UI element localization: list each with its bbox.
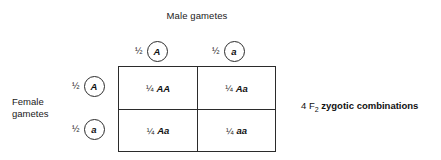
female-gamete-a-probability: ½: [72, 125, 80, 134]
caption-emphasis: zygotic combinations: [321, 100, 418, 111]
male-gamete-a-probability: ½: [212, 47, 220, 56]
punnett-grid: ¼ AA ¼ Aa ¼ Aa ¼ aa: [118, 66, 276, 152]
allele-circle-icon: a: [84, 119, 105, 140]
allele-circle-icon: A: [147, 41, 168, 62]
male-gametes-heading: Male gametes: [118, 10, 276, 21]
punnett-cell-aa-genotype: aa: [236, 125, 247, 136]
caption-count: 4 F: [301, 100, 315, 111]
female-gametes-heading: Female gametes: [12, 96, 48, 119]
punnett-cell-Aa-bottom-probability: ¼: [147, 126, 155, 136]
punnett-cell-aa: ¼ aa: [197, 109, 275, 151]
male-gamete-a: ½ a: [212, 41, 245, 62]
female-gamete-A-probability: ½: [72, 82, 80, 91]
punnett-cell-AA-genotype: AA: [156, 83, 170, 94]
punnett-cell-aa-probability: ¼: [226, 126, 234, 136]
zygotic-combinations-caption: 4 F2 zygotic combinations: [301, 100, 418, 113]
female-gametes-heading-line1: Female: [12, 96, 48, 108]
punnett-cell-Aa-bottom: ¼ Aa: [119, 109, 197, 151]
male-gamete-a-allele: a: [231, 47, 236, 57]
punnett-cell-AA-probability: ¼: [146, 83, 154, 93]
male-gamete-A: ½ A: [135, 41, 168, 62]
male-gamete-A-allele: A: [154, 47, 161, 57]
punnett-cell-AA: ¼ AA: [119, 67, 197, 109]
female-gametes-heading-line2: gametes: [12, 108, 48, 120]
allele-circle-icon: a: [224, 41, 245, 62]
caption-generation-subscript: 2: [315, 106, 319, 113]
punnett-cell-Aa-top: ¼ Aa: [197, 67, 275, 109]
allele-circle-icon: A: [84, 76, 105, 97]
female-gamete-A-allele: A: [91, 82, 98, 92]
punnett-cell-Aa-bottom-genotype: Aa: [157, 125, 169, 136]
male-gamete-A-probability: ½: [135, 47, 143, 56]
female-gamete-a-allele: a: [91, 125, 96, 135]
punnett-square-diagram: Male gametes ½ A ½ a Female gametes ½ A …: [0, 0, 441, 160]
punnett-cell-Aa-top-genotype: Aa: [236, 83, 248, 94]
female-gamete-a: ½ a: [72, 119, 105, 140]
punnett-cell-Aa-top-probability: ¼: [225, 83, 233, 93]
female-gamete-A: ½ A: [72, 76, 105, 97]
